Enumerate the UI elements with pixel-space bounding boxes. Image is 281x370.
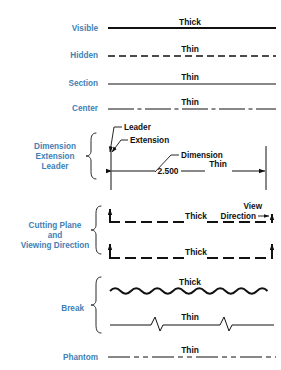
alphabet-of-lines-chart: Visible Thick Hidden Thin Section Thin C… [0,0,281,370]
extension-callout-line [112,140,128,152]
group-dimension-extension-leader: Dimension Extension Leader Leader Extens… [34,123,266,190]
group-label-cutting-line-3: Viewing Direction [21,241,90,250]
weight-label-break-wavy: Thick [179,277,201,287]
group-label-dimension-line-2: Extension [35,152,74,161]
brace-dimension [86,133,96,179]
weight-label-section: Thin [181,72,199,82]
group-label-dimension-line-1: Dimension [34,142,76,151]
row-label-center: Center [72,104,99,113]
annotation-leader: Leader [124,123,152,132]
dimension-value: 2.500 [158,166,179,176]
annotation-view-direction-line1: View [243,202,262,211]
row-center: Center Thin [72,97,276,113]
weight-label-break-zigzag: Thin [181,312,199,322]
break-line-wavy [110,288,268,294]
row-section: Section Thin [68,72,276,88]
cutting-plane-lower: Thick [109,244,273,258]
weight-label-cutting-upper: Thick [185,211,207,221]
weight-label-hidden: Thin [181,44,199,54]
weight-label-dimension: Thin [209,159,227,169]
weight-label-center: Thin [181,97,199,107]
group-label-cutting-line-1: Cutting Plane [29,221,82,230]
weight-label-phantom: Thin [181,345,199,355]
brace-break [91,277,101,333]
weight-label-visible: Thick [179,17,201,27]
row-label-section: Section [68,79,98,88]
group-label-dimension-line-3: Leader [42,162,70,171]
annotation-extension: Extension [130,136,169,145]
row-label-hidden: Hidden [70,51,98,60]
annotation-view-direction-line2: Direction [221,212,257,221]
weight-label-cutting-lower: Thick [185,247,207,257]
brace-cutting-plane [91,206,101,254]
row-visible: Visible Thick [72,17,276,33]
group-cutting-plane: Cutting Plane and Viewing Direction View… [21,202,273,258]
group-label-cutting-line-2: and [48,231,63,240]
group-label-break: Break [61,304,84,313]
row-label-phantom: Phantom [63,353,98,362]
leader-callout-line [110,127,122,152]
group-break: Break Thick Thin [61,277,274,333]
row-label-visible: Visible [72,24,99,33]
row-hidden: Hidden Thin [70,44,276,60]
row-phantom: Phantom Thin [63,345,276,362]
